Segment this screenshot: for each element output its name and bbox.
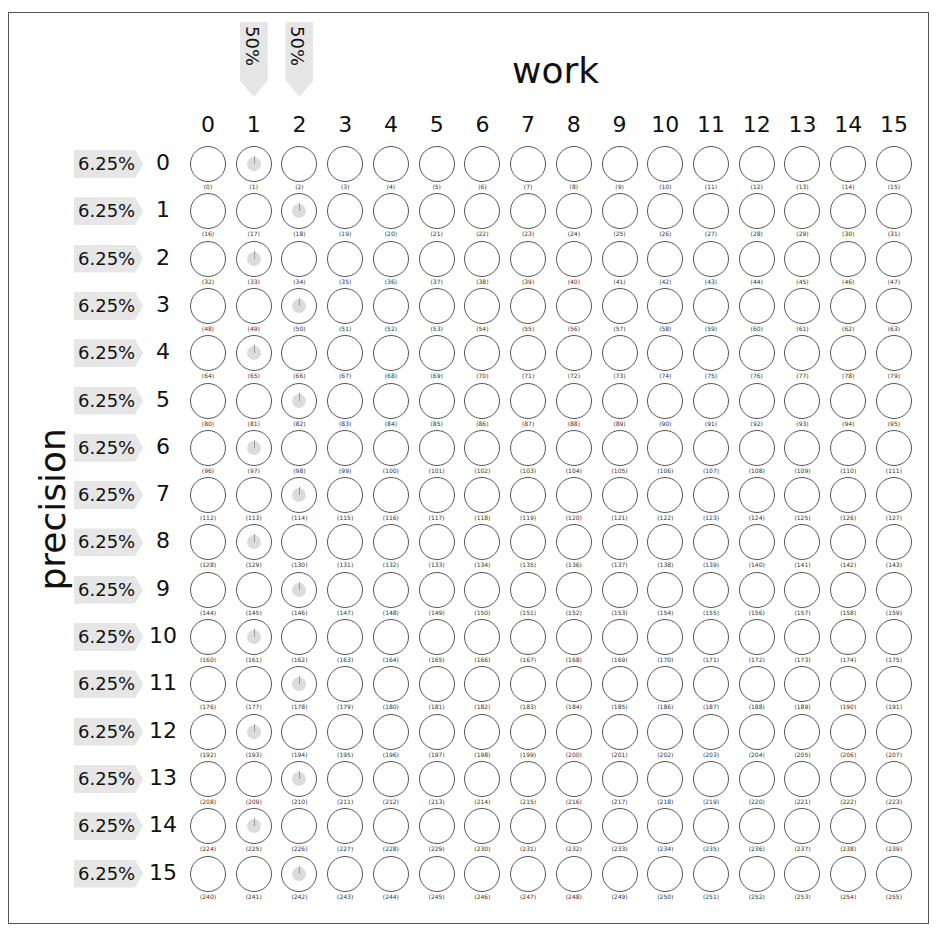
cell-index: (243) (330, 893, 360, 900)
cell (556, 335, 592, 371)
cell (876, 477, 912, 513)
row-percent-badge: 6.25% (74, 812, 143, 840)
cell-index: (174) (833, 656, 863, 663)
column-label: 14 (828, 112, 868, 137)
cell (830, 572, 866, 608)
row-label: 1 (148, 197, 178, 222)
cell (327, 146, 363, 182)
cell-index: (77) (787, 372, 817, 379)
cell-index: (152) (559, 609, 589, 616)
cell (419, 383, 455, 419)
cell-index: (194) (284, 751, 314, 758)
cell (876, 193, 912, 229)
cell-index: (182) (467, 703, 497, 710)
cell (419, 288, 455, 324)
cell (876, 146, 912, 182)
cell-index: (171) (696, 656, 726, 663)
cell-index: (219) (696, 798, 726, 805)
cell (556, 714, 592, 750)
cell-index: (40) (559, 278, 589, 285)
cell-index: (255) (879, 893, 909, 900)
cell-index: (250) (650, 893, 680, 900)
cell (556, 288, 592, 324)
cell-index: (90) (650, 420, 680, 427)
cell-index: (25) (605, 230, 635, 237)
cell-index: (14) (833, 183, 863, 190)
row-percent-badge: 6.25% (74, 765, 143, 793)
cell (830, 430, 866, 466)
cell-index: (98) (284, 467, 314, 474)
cell-index: (249) (605, 893, 635, 900)
cell-index: (181) (422, 703, 452, 710)
cell (602, 856, 638, 892)
cell-index: (117) (422, 514, 452, 521)
cell-index: (111) (879, 467, 909, 474)
row-label: 6 (148, 434, 178, 459)
cell (327, 288, 363, 324)
cell (830, 761, 866, 797)
cell (602, 619, 638, 655)
cell-index: (175) (879, 656, 909, 663)
cell (830, 383, 866, 419)
cell-index: (148) (376, 609, 406, 616)
cell (693, 241, 729, 277)
cell-index: (99) (330, 467, 360, 474)
cell (236, 666, 272, 702)
row-label: 15 (148, 860, 178, 885)
cell-index: (176) (193, 703, 223, 710)
cell (236, 761, 272, 797)
cell-index: (91) (696, 420, 726, 427)
cell-index: (129) (239, 561, 269, 568)
cell (784, 572, 820, 608)
cell-index: (27) (696, 230, 726, 237)
cell-index: (107) (696, 467, 726, 474)
cell (464, 572, 500, 608)
cell-index: (248) (559, 893, 589, 900)
cell-index: (140) (742, 561, 772, 568)
cell-index: (169) (605, 656, 635, 663)
cell-index: (53) (422, 325, 452, 332)
cell (510, 383, 546, 419)
cell-index: (205) (787, 751, 817, 758)
cell (556, 524, 592, 560)
row-percent-badge: 6.25% (74, 718, 143, 746)
row-label: 9 (148, 576, 178, 601)
cell (830, 619, 866, 655)
cell-index: (37) (422, 278, 452, 285)
cell-index: (224) (193, 845, 223, 852)
cell-index: (13) (787, 183, 817, 190)
cell-index: (156) (742, 609, 772, 616)
cell (419, 241, 455, 277)
cell-index: (191) (879, 703, 909, 710)
cell (693, 856, 729, 892)
cell-index: (71) (513, 372, 543, 379)
cell-index: (203) (696, 751, 726, 758)
cell-index: (231) (513, 845, 543, 852)
cell (693, 430, 729, 466)
cell (647, 761, 683, 797)
row-percent-badge: 6.25% (74, 528, 143, 556)
cell-index: (12) (742, 183, 772, 190)
cell-index: (3) (330, 183, 360, 190)
cell (556, 808, 592, 844)
cell-index: (123) (696, 514, 726, 521)
cell (190, 761, 226, 797)
cell (556, 383, 592, 419)
column-label: 10 (645, 112, 685, 137)
cell-index: (124) (742, 514, 772, 521)
column-label: 2 (279, 112, 319, 137)
cell (602, 335, 638, 371)
cell-index: (120) (559, 514, 589, 521)
cell-index: (251) (696, 893, 726, 900)
cell (602, 714, 638, 750)
cell (419, 524, 455, 560)
cell-index: (227) (330, 845, 360, 852)
cell-index: (58) (650, 325, 680, 332)
cell-index: (155) (696, 609, 726, 616)
cell (693, 288, 729, 324)
cell (373, 288, 409, 324)
cell-index: (161) (239, 656, 269, 663)
cell-index: (200) (559, 751, 589, 758)
cell-index: (221) (787, 798, 817, 805)
cell (739, 383, 775, 419)
